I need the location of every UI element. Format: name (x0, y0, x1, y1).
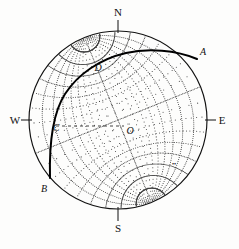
label-point-b: B (41, 184, 47, 194)
label-north: N (114, 7, 122, 18)
stereonet-figure: •• N S E W A B C D O (0, 0, 239, 249)
label-point-d: D (94, 63, 101, 73)
label-point-o: O (126, 126, 133, 136)
lower-right-tick: •• (172, 161, 176, 167)
label-point-a: A (200, 47, 206, 57)
label-south: S (115, 223, 121, 234)
label-east: E (219, 115, 226, 126)
primitive-circle (29, 31, 207, 209)
stereonet-canvas: •• (0, 0, 239, 249)
great-circle-ABD (50, 50, 197, 178)
stereonet-grid (32, 32, 204, 208)
label-point-c: C (53, 123, 60, 133)
label-west: W (10, 115, 20, 126)
